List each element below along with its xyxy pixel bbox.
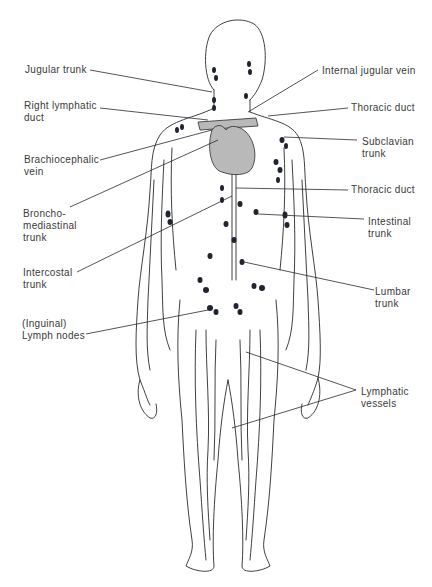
- body-illustration: [0, 0, 432, 587]
- label-intercostal-trunk: Intercostal trunk: [23, 267, 72, 291]
- heart-illustration: [198, 118, 258, 175]
- label-subclavian-trunk: Subclavian trunk: [362, 136, 414, 160]
- label-right-lymphatic-duct: Right lymphatic duct: [24, 100, 97, 124]
- head-outline: [205, 20, 265, 100]
- label-lumbar-trunk: Lumbar trunk: [375, 286, 411, 310]
- label-inguinal-lymph-nodes: (Inguinal) Lymph nodes: [22, 318, 85, 342]
- label-brachiocephalic-vein: Brachiocephalic vein: [24, 154, 99, 178]
- label-internal-jugular-vein: Internal jugular vein: [322, 65, 416, 77]
- lymphatic-system-diagram: Jugular trunk Right lymphatic duct Brach…: [0, 0, 432, 587]
- lymph-nodes: [166, 61, 290, 315]
- label-bronchomediastinal-trunk: Broncho- mediastinal trunk: [23, 208, 77, 244]
- label-jugular-trunk: Jugular trunk: [25, 64, 87, 76]
- label-thoracic-duct-lower: Thoracic duct: [351, 184, 415, 196]
- label-lymphatic-vessels: Lymphatic vessels: [361, 386, 409, 410]
- label-intestinal-trunk: Intestinal trunk: [368, 216, 411, 240]
- label-thoracic-duct-upper: Thoracic duct: [351, 102, 415, 114]
